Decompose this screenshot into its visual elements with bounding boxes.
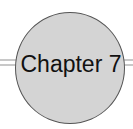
left-rule-bottom bbox=[0, 64, 16, 66]
left-rule-top bbox=[0, 59, 16, 61]
chapter-title: Chapter 7 bbox=[16, 50, 126, 78]
